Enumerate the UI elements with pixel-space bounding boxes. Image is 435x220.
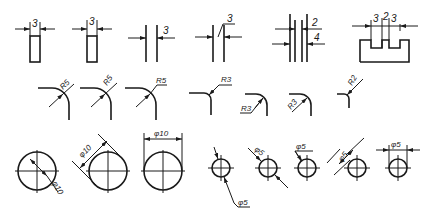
radius-label: R3 bbox=[286, 97, 300, 111]
dim-label: 3 bbox=[391, 13, 397, 24]
fig6-stepped-profile-3-2-3: 3 2 3 bbox=[352, 11, 418, 62]
diameter-label: φ5 bbox=[253, 145, 267, 158]
diameter-label: φ5 bbox=[296, 142, 306, 151]
diameter-phi10-diagonal: φ10 bbox=[15, 150, 65, 197]
dim-label-2: 2 bbox=[311, 17, 318, 28]
radius-r3-1: R3 bbox=[189, 75, 232, 115]
diameter-phi5-leader-up: φ5 bbox=[294, 142, 320, 181]
diameter-phi5-leader-down: φ5 bbox=[208, 147, 250, 207]
dim-label: 3 bbox=[32, 18, 38, 29]
radius-r3-2: R3 bbox=[240, 94, 267, 116]
radius-label: R3 bbox=[241, 104, 252, 113]
diameter-label: φ5 bbox=[238, 198, 248, 207]
diameter-phi10-leader: φ10 bbox=[72, 134, 130, 193]
radius-r5-2: R5 bbox=[80, 73, 117, 120]
fig3-parallel-lines-3: 3 bbox=[128, 25, 175, 62]
diameter-phi5-diagonal: φ5 bbox=[248, 145, 288, 188]
fig2-rect-width-3: 3 bbox=[72, 16, 112, 62]
fig4-parallel-lines-leader-3: 3 bbox=[195, 13, 242, 62]
diameter-label: φ10 bbox=[154, 129, 169, 138]
dim-label-4: 4 bbox=[314, 32, 320, 43]
radius-r5-1: R5 bbox=[38, 77, 74, 120]
diameter-phi5-angled: φ5 bbox=[327, 138, 370, 181]
fig1-rect-width-3: 3 bbox=[15, 18, 55, 62]
radius-label: R3 bbox=[221, 75, 232, 84]
radius-label: R5 bbox=[156, 76, 167, 85]
radius-r2: R2 bbox=[337, 73, 363, 108]
radius-r5-3: R5 bbox=[125, 76, 167, 120]
dimensioning-diagram: 3 3 3 3 2 4 bbox=[0, 0, 435, 220]
dim-label: 2 bbox=[382, 11, 389, 22]
dim-label: 3 bbox=[227, 13, 233, 24]
dim-label: 3 bbox=[373, 13, 379, 24]
radius-label: R5 bbox=[101, 73, 115, 87]
radius-r3-3: R3 bbox=[286, 94, 311, 116]
diameter-label: φ10 bbox=[50, 180, 65, 197]
fig5-multi-lines-2-4: 2 4 bbox=[272, 14, 325, 62]
diameter-phi10-horizontal: φ10 bbox=[141, 129, 185, 193]
diameter-label: φ5 bbox=[391, 140, 401, 149]
dim-label: 3 bbox=[163, 25, 169, 36]
dim-label: 3 bbox=[89, 16, 95, 27]
diameter-phi5-horizontal: φ5 bbox=[376, 140, 420, 181]
